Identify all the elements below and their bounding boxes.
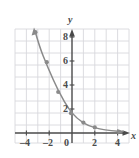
y-axis-label: y bbox=[68, 15, 72, 25]
y-tick-label-2: 2 bbox=[63, 104, 68, 114]
y-tick-label-8: 8 bbox=[63, 32, 68, 42]
data-point bbox=[81, 121, 85, 125]
data-point bbox=[93, 125, 97, 129]
y-axis bbox=[69, 29, 75, 143]
data-point bbox=[33, 30, 37, 34]
data-point bbox=[69, 111, 73, 115]
x-tick-label-2: 2 bbox=[92, 138, 97, 148]
y-tick-label-4: 4 bbox=[63, 80, 68, 90]
exponential-curve bbox=[32, 28, 125, 135]
x-axis-label: x bbox=[131, 131, 136, 141]
exponential-decay-graph-figure: 8 6 4 2 –4 –2 0 2 4 y x bbox=[0, 0, 139, 158]
data-point bbox=[56, 90, 60, 94]
x-tick-label-neg2: –2 bbox=[43, 138, 53, 148]
y-tick-label-6: 6 bbox=[63, 56, 68, 66]
x-tick-label-4: 4 bbox=[115, 138, 120, 148]
data-point bbox=[45, 60, 49, 64]
x-tick-label-neg4: –4 bbox=[20, 138, 30, 148]
x-tick-label-origin: 0 bbox=[64, 138, 69, 148]
